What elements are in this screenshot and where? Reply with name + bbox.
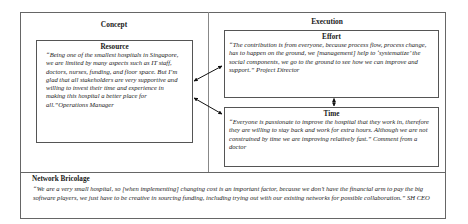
resource-box: Resource “Being one of the smallest hosp… xyxy=(36,40,193,143)
execution-title: Execution xyxy=(208,17,446,26)
concept-title: Concept xyxy=(20,20,208,29)
section-divider xyxy=(20,172,446,173)
time-title: Time xyxy=(225,110,438,118)
effort-title: Effort xyxy=(225,33,438,41)
network-bricolage-title: Network Bricolage xyxy=(32,175,90,183)
network-bricolage-quote: “We are a very small hospital, so [when … xyxy=(33,184,433,203)
effort-quote: “The contribution is from everyone, beca… xyxy=(225,41,438,74)
time-quote: “Everyone is passionate to improve the h… xyxy=(225,118,438,151)
column-divider xyxy=(208,12,209,172)
time-box: Time “Everyone is passionate to improve … xyxy=(224,107,439,167)
resource-quote: “Being one of the smallest hospitals in … xyxy=(37,51,192,109)
effort-box: Effort “The contribution is from everyon… xyxy=(224,30,439,98)
resource-title: Resource xyxy=(37,43,192,51)
